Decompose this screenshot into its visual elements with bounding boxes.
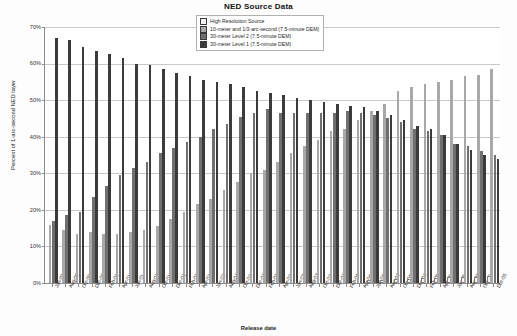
bar-group <box>232 27 245 283</box>
legend-item-high-resolution-source: High Resolution Source <box>200 18 319 26</box>
bar <box>497 159 500 283</box>
bar-group <box>206 27 219 283</box>
chart-legend: High Resolution Source 10-meter and 1/3-… <box>196 15 324 51</box>
bar-group <box>45 27 58 283</box>
bar <box>403 120 406 283</box>
legend-item-30-meter-level-2: 30-meter Level 2 (7.5-minute DEM) <box>200 33 319 41</box>
bar <box>135 64 138 283</box>
bar-group <box>165 27 178 283</box>
bar-group <box>286 27 299 283</box>
bar-group <box>246 27 259 283</box>
y-axis-tick-label: 20% <box>1 207 41 213</box>
bar-group <box>313 27 326 283</box>
bar-group <box>85 27 98 283</box>
bar-group <box>353 27 366 283</box>
bar-group <box>299 27 312 283</box>
bar <box>483 155 486 283</box>
bar <box>456 144 459 283</box>
bar-group <box>473 27 486 283</box>
bar <box>349 106 352 283</box>
x-axis-label: Release date <box>0 325 517 331</box>
bar-group <box>125 27 138 283</box>
bar-group <box>112 27 125 283</box>
y-axis-tick-label: 70% <box>1 24 41 30</box>
bar-group <box>139 27 152 283</box>
bar <box>256 91 259 283</box>
bar <box>430 129 433 283</box>
bar <box>363 107 366 283</box>
bar-group <box>380 27 393 283</box>
bar-group <box>259 27 272 283</box>
bar <box>68 40 71 283</box>
bar <box>202 80 205 283</box>
bar-group <box>420 27 433 283</box>
legend-label: 30-meter Level 2 (7.5-minute DEM) <box>210 33 291 40</box>
bar <box>189 76 192 283</box>
chart-figure: NED Source Data High Resolution Source 1… <box>0 0 517 336</box>
legend-label: High Resolution Source <box>210 18 265 25</box>
y-axis-tick-label: 50% <box>1 97 41 103</box>
legend-swatch-icon <box>200 26 207 33</box>
bar <box>149 65 152 283</box>
bar <box>376 111 379 283</box>
bar <box>162 69 165 283</box>
bar-group <box>273 27 286 283</box>
bar-group <box>192 27 205 283</box>
bar <box>390 115 393 283</box>
bar-group <box>58 27 71 283</box>
chart-title: NED Source Data <box>0 2 517 11</box>
bar-group <box>393 27 406 283</box>
bar <box>122 58 125 283</box>
bar <box>323 102 326 283</box>
bar <box>309 100 312 283</box>
bar-group <box>326 27 339 283</box>
legend-item-30-meter-level-1: 30-meter Level 1 (7.5-minute DEM) <box>200 41 319 49</box>
y-axis-tick <box>42 283 45 284</box>
legend-label: 10-meter and 1/3-arc-second (7.5-minute … <box>210 26 319 33</box>
bar <box>470 150 473 283</box>
y-axis-tick-label: 60% <box>1 60 41 66</box>
bar <box>282 95 285 283</box>
legend-item-10-meter: 10-meter and 1/3-arc-second (7.5-minute … <box>200 26 319 34</box>
bar-group <box>219 27 232 283</box>
bar-group <box>487 27 500 283</box>
bar <box>95 51 98 283</box>
y-axis-tick-label: 30% <box>1 170 41 176</box>
bar-group <box>460 27 473 283</box>
bar <box>55 38 58 283</box>
bar-group <box>433 27 446 283</box>
bar <box>229 84 232 283</box>
bar-group <box>339 27 352 283</box>
bar <box>82 47 85 283</box>
y-axis-tick-label: 40% <box>1 134 41 140</box>
bar-group <box>152 27 165 283</box>
bar <box>336 104 339 283</box>
bar <box>216 82 219 283</box>
y-axis-tick-label: 0% <box>1 280 41 286</box>
plot-area: 0%10%20%30%40%50%60%70%Jun-00Aug-00Oct-0… <box>44 27 500 284</box>
legend-label: 30-meter Level 1 (7.5-minute DEM) <box>210 41 291 48</box>
bar <box>443 135 446 283</box>
bar-group <box>179 27 192 283</box>
legend-swatch-icon <box>200 41 207 48</box>
legend-swatch-icon <box>200 33 207 40</box>
legend-swatch-icon <box>200 18 207 25</box>
bar <box>296 98 299 283</box>
bar <box>108 54 111 283</box>
bar <box>242 87 245 283</box>
bar <box>175 73 178 283</box>
bar <box>416 126 419 283</box>
bar-group <box>366 27 379 283</box>
bar-group <box>406 27 419 283</box>
bar-group <box>446 27 459 283</box>
bar <box>269 93 272 283</box>
bar-group <box>99 27 112 283</box>
y-axis-tick-label: 10% <box>1 243 41 249</box>
bar-group <box>72 27 85 283</box>
